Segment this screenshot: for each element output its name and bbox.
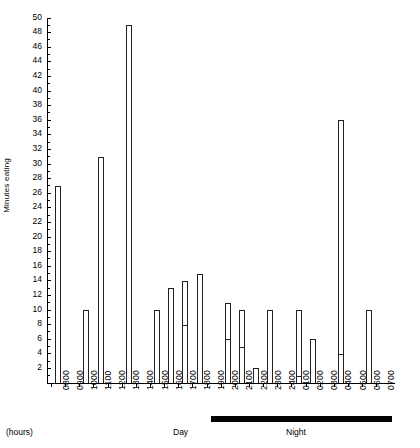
y-tick-label: 30 [33,159,42,168]
bar-1300 [126,25,132,383]
y-tick-mark [47,361,50,362]
y-tick-mark [47,375,50,376]
y-tick-mark [47,331,50,332]
bar-1700 [182,281,188,383]
x-tick-mark [207,383,208,387]
y-tick-mark [47,310,51,311]
x-tick-mark [221,383,222,387]
x-tick-mark [291,383,292,387]
x-tick-label: 0700 [387,370,396,390]
y-tick-mark [47,149,51,150]
y-tick-mark [47,156,50,157]
y-tick-mark [47,207,51,208]
y-tick-label: 48 [33,27,42,36]
y-tick-label: 16 [33,261,42,270]
x-tick-mark [65,383,66,387]
hours-unit-label: (hours) [6,427,33,437]
y-tick-mark [47,237,51,238]
bar-divider-0400 [338,354,344,355]
y-tick-mark [47,91,51,92]
y-tick-label: 36 [33,115,42,124]
y-tick-mark [47,215,50,216]
y-tick-mark [47,142,50,143]
y-tick-mark [47,18,51,19]
x-tick-mark [334,383,335,387]
x-tick-mark [122,383,123,387]
y-tick-mark [47,171,50,172]
y-tick-mark [47,266,51,267]
x-tick-mark [348,383,349,387]
y-tick-mark [47,112,50,113]
x-tick-mark [178,383,179,387]
y-tick-mark [47,164,51,165]
bar-2000 [225,303,231,383]
y-tick-label: 34 [33,129,42,138]
night-period-band [211,416,392,422]
y-tick-label: 8 [37,319,42,328]
y-tick-mark [47,368,51,369]
y-tick-label: 20 [33,232,42,241]
bar-0400 [338,120,344,383]
x-tick-mark [51,383,52,387]
y-tick-label: 46 [33,42,42,51]
y-tick-label: 32 [33,144,42,153]
x-tick-mark [320,383,321,387]
x-tick-mark [376,383,377,387]
y-tick-mark [47,353,51,354]
y-tick-label: 14 [33,275,42,284]
chart-figure: Minutes eating 2468101214161820222426283… [0,0,420,448]
y-tick-mark [47,273,50,274]
bar-divider-0100 [296,376,302,377]
y-tick-label: 50 [33,13,42,22]
y-tick-mark [47,244,50,245]
y-tick-label: 22 [33,217,42,226]
bar-1000 [83,310,89,383]
y-tick-mark [47,127,50,128]
bar-1500 [154,310,160,383]
bar-2200 [253,368,259,383]
y-tick-mark [47,200,50,201]
x-tick-mark [277,383,278,387]
x-tick-mark [136,383,137,387]
y-tick-mark [47,251,51,252]
y-tick-mark [47,178,51,179]
y-tick-label: 24 [33,202,42,211]
bar-divider-1700 [182,325,188,326]
y-tick-mark [47,76,51,77]
y-tick-label: 18 [33,246,42,255]
bar-0200 [310,339,316,383]
y-tick-mark [47,39,50,40]
y-tick-mark [47,98,50,99]
y-tick-label: 26 [33,188,42,197]
plot-area: 2468101214161820222426283032343638404244… [47,18,395,383]
y-tick-mark [47,295,51,296]
x-tick-mark [235,383,236,387]
x-tick-mark [79,383,80,387]
y-tick-mark [47,339,51,340]
x-tick-mark [362,383,363,387]
bar-1100 [98,157,104,383]
x-tick-mark [164,383,165,387]
y-tick-mark [47,302,50,303]
y-tick-label: 10 [33,305,42,314]
y-tick-mark [47,69,50,70]
bar-0600 [366,310,372,383]
y-tick-label: 40 [33,86,42,95]
y-tick-mark [47,222,51,223]
y-tick-mark [47,120,51,121]
y-tick-mark [47,25,50,26]
y-tick-mark [47,61,51,62]
x-tick-mark [108,383,109,387]
bar-0100 [296,310,302,383]
y-tick-mark [47,280,51,281]
y-tick-mark [47,288,50,289]
y-axis-title: Minutes eating [2,38,11,158]
x-tick-label: 1100 [104,371,113,390]
y-tick-label: 44 [33,56,42,65]
bar-1600 [168,288,174,383]
y-tick-label: 28 [33,173,42,182]
bar-divider-2100 [239,347,245,348]
y-tick-label: 42 [33,71,42,80]
x-tick-mark [192,383,193,387]
y-tick-mark [47,54,50,55]
